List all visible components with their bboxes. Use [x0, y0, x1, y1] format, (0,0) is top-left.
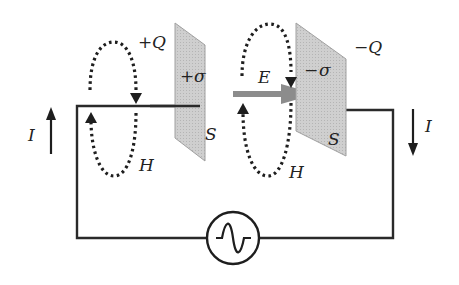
label-area-left: S	[205, 124, 217, 144]
capacitor-circuit-diagram: + Q + σ S −Q − σ S E H H I I	[0, 0, 459, 285]
current-arrow-left	[46, 107, 56, 154]
positive-plate	[175, 23, 205, 161]
h-loop-right-arrow-up	[237, 103, 249, 114]
label-minus-sigma-sign: −	[304, 60, 318, 80]
label-plus-sigma: σ	[194, 66, 206, 86]
label-minus-q: −Q	[354, 37, 382, 57]
label-plus-q-sign: +	[138, 32, 152, 52]
h-loop-left-arrow-down	[130, 93, 142, 104]
label-h-left: H	[138, 155, 155, 175]
label-plus-sigma-sign: +	[180, 66, 194, 86]
label-area-right: S	[328, 129, 340, 149]
label-minus-sigma: σ	[319, 60, 331, 80]
h-loop-left-arrow-up	[85, 112, 97, 123]
ac-source	[207, 212, 259, 264]
label-current-left: I	[27, 125, 35, 145]
label-plus-q: Q	[152, 32, 166, 52]
h-loop-left	[90, 42, 136, 176]
label-h-right: H	[288, 162, 305, 182]
label-current-right: I	[424, 116, 432, 136]
current-arrow-right	[408, 109, 418, 156]
label-e-field: E	[257, 67, 271, 87]
